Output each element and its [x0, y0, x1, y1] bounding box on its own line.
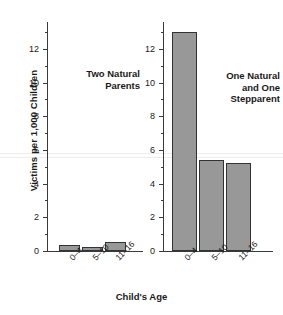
x-axis-title: Child's Age [0, 291, 283, 302]
left-annotation-line1: Two Natural [86, 68, 140, 79]
left-panel-annotation: Two NaturalParents [62, 68, 140, 91]
y-tick-label: 2 [133, 213, 155, 222]
right-annotation-line2: and One [242, 82, 280, 93]
y-tick-label: 12 [17, 45, 39, 54]
y-tick-major [43, 83, 47, 84]
y-tick-label: 8 [17, 112, 39, 121]
y-tick-minor [45, 32, 48, 33]
y-tick-label: 4 [133, 180, 155, 189]
y-tick-minor [161, 167, 164, 168]
y-tick-label: 6 [133, 146, 155, 155]
y-tick-label: 6 [17, 146, 39, 155]
y-tick-label: 0 [133, 247, 155, 256]
bar [172, 32, 197, 251]
y-tick-minor [45, 99, 48, 100]
y-tick-major [43, 150, 47, 151]
y-tick-major [43, 184, 47, 185]
left-y-axis-line [47, 22, 48, 251]
y-tick-label: 10 [133, 79, 155, 88]
y-tick-minor [45, 167, 48, 168]
y-tick-major [43, 251, 47, 252]
y-tick-label: 4 [17, 180, 39, 189]
y-tick-minor [161, 99, 164, 100]
y-tick-minor [161, 133, 164, 134]
y-tick-minor [45, 66, 48, 67]
right-panel-annotation: One Naturaland OneStepparent [196, 70, 280, 105]
y-tick-major [159, 116, 163, 117]
y-tick-minor [45, 133, 48, 134]
y-tick-minor [45, 234, 48, 235]
y-tick-major [43, 116, 47, 117]
y-axis-title: Victims per 1,000 Children [28, 36, 39, 226]
y-tick-minor [161, 32, 164, 33]
y-tick-major [159, 184, 163, 185]
y-tick-major [159, 251, 163, 252]
y-tick-major [43, 217, 47, 218]
bar [226, 163, 251, 251]
y-tick-major [43, 49, 47, 50]
y-tick-major [159, 49, 163, 50]
y-tick-major [159, 150, 163, 151]
chart-figure: Victims per 1,000 Children Child's Age 0… [0, 0, 283, 315]
y-tick-label: 8 [133, 112, 155, 121]
right-annotation-line3: Stepparent [230, 93, 280, 104]
y-tick-minor [161, 200, 164, 201]
right-annotation-line1: One Natural [226, 70, 280, 81]
y-tick-label: 2 [17, 213, 39, 222]
y-tick-label: 0 [17, 247, 39, 256]
y-tick-minor [161, 234, 164, 235]
scan-artifact-line [0, 157, 283, 158]
y-tick-major [159, 83, 163, 84]
right-y-axis-line [163, 22, 164, 251]
bar [199, 160, 224, 251]
y-tick-minor [45, 200, 48, 201]
x-tick-label: 5–10 [91, 243, 111, 263]
y-tick-label: 12 [133, 45, 155, 54]
y-tick-major [159, 217, 163, 218]
y-tick-minor [161, 66, 164, 67]
y-tick-label: 10 [17, 79, 39, 88]
